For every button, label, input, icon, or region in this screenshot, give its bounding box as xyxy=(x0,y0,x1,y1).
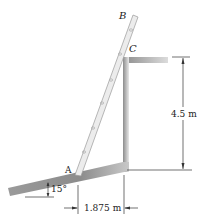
horizontal-dimension-label: 1.875 m xyxy=(84,203,122,213)
point-label-a: A xyxy=(64,165,72,175)
vertical-wall xyxy=(123,57,129,172)
slope-angle-label: 15° xyxy=(51,184,67,194)
top-ledge xyxy=(123,57,168,63)
point-label-b: B xyxy=(118,10,126,21)
ladder-diagram: B C A 4.5 m 1.875 m 15° xyxy=(0,0,207,219)
height-dimension-label: 4.5 m xyxy=(171,109,197,119)
point-label-c: C xyxy=(129,43,137,54)
